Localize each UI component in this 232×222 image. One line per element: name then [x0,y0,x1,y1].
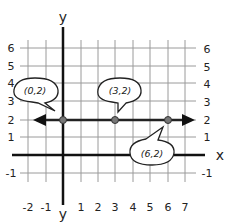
bubble-0-2: (0,2) [14,78,58,111]
svg-text:4: 4 [130,201,137,214]
svg-text:-2: -2 [23,201,34,214]
point-3-2 [112,117,119,124]
svg-text:5: 5 [8,60,15,73]
x-tick-labels: -2 -1 1 2 3 4 5 6 7 [23,201,189,214]
bubble-label-3-2: (3,2) [109,85,132,96]
svg-text:2: 2 [8,114,15,127]
point-0-2 [60,117,67,124]
y-tick-labels-right: 6 5 4 3 2 1 -1 [202,43,213,180]
svg-text:7: 7 [182,201,189,214]
svg-text:-1: -1 [41,201,52,214]
arrow-left-icon [33,114,46,126]
svg-text:4: 4 [8,77,15,90]
svg-text:6: 6 [8,42,15,55]
x-axis-label: x [216,147,224,163]
svg-text:6: 6 [165,201,172,214]
svg-text:5: 5 [147,201,154,214]
point-6-2 [165,117,172,124]
svg-text:6: 6 [204,43,211,56]
svg-text:2: 2 [204,114,211,127]
svg-text:3: 3 [112,201,119,214]
y-axis-label-top: y [59,9,67,25]
bubble-6-2: (6,2) [130,127,174,165]
svg-text:1: 1 [78,201,85,214]
svg-text:5: 5 [204,61,211,74]
coordinate-plane: (0,2) (3,2) (6,2) y y x -2 -1 1 2 3 4 5 … [0,0,232,222]
svg-text:3: 3 [204,96,211,109]
y-tick-labels-left: 6 5 4 3 2 1 -1 [6,42,17,180]
svg-text:2: 2 [95,201,102,214]
svg-text:3: 3 [8,95,15,108]
svg-text:-1: -1 [6,167,17,180]
svg-text:1: 1 [8,131,15,144]
arrow-right-icon [182,114,195,126]
svg-text:4: 4 [204,78,211,91]
bubble-label-0-2: (0,2) [24,85,47,96]
bubble-label-6-2: (6,2) [141,148,164,159]
svg-text:-1: -1 [202,167,213,180]
svg-text:1: 1 [204,131,211,144]
bubble-3-2: (3,2) [98,78,141,112]
y-axis-label-bottom: y [59,206,67,222]
